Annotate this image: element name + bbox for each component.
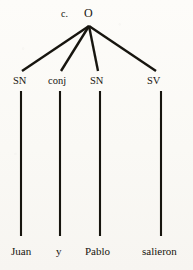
node-label-sn-1: SN (13, 76, 26, 87)
node-label-root-o: O (84, 7, 93, 19)
node-label-sn-2: SN (90, 76, 103, 87)
figure-canvas: c. O SN conj SN SV Juan y Pablo salieron (0, 0, 193, 270)
leaf-word-salieron: salieron (142, 246, 177, 257)
leaf-word-pablo: Pablo (85, 246, 110, 257)
leaf-word-y: y (56, 246, 62, 257)
branch-root-to-sv (89, 26, 156, 71)
branch-root-to-sn2 (89, 26, 98, 71)
branch-root-to-sn1 (22, 26, 89, 71)
tree-diagram-lines (0, 0, 193, 270)
node-label-conj: conj (48, 76, 66, 87)
node-label-sv: SV (147, 76, 160, 87)
item-marker: c. (61, 9, 68, 19)
leaf-word-juan: Juan (11, 246, 31, 257)
branch-root-to-conj (61, 26, 89, 71)
